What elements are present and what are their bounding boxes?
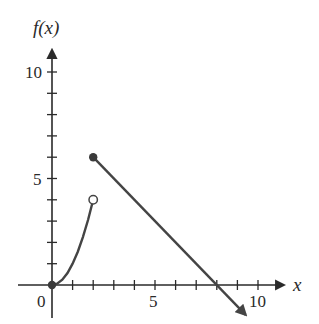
- origin-label: 0: [37, 292, 46, 311]
- x-tick-label-5: 5: [149, 292, 158, 311]
- y-tick-label-10: 10: [25, 63, 42, 82]
- x-axis-title: x: [292, 274, 302, 295]
- y-axis-title: f(x): [33, 17, 59, 39]
- open-point: [89, 196, 97, 204]
- linear-segment: [93, 157, 245, 315]
- y-tick-label-5: 5: [33, 170, 42, 189]
- x-tick-label-10: 10: [249, 292, 266, 311]
- closed-point: [89, 153, 97, 161]
- parabola-segment: [52, 200, 93, 285]
- closed-point-origin: [48, 281, 56, 289]
- function-graph: 0 5 10 5 10 f(x) x: [0, 0, 319, 324]
